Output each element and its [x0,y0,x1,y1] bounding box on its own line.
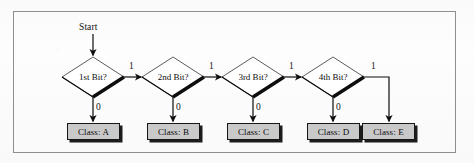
decision-label-bit2: 2nd Bit? [143,73,203,82]
outcome-box-classE: Class: E [362,123,415,140]
edge-label-bit4-yes: 1 [371,62,376,72]
edge-bit4-to-classE [364,77,389,122]
edge-label-bit3-yes: 1 [289,62,294,72]
decision-label-bit1: 1st Bit? [63,73,123,82]
edge-label-bit2-yes: 1 [209,62,214,72]
outcome-box-classC: Class: C [227,123,280,140]
figure-canvas: Start 1st Bit? 2nd Bit? 3rd Bit? 4th Bit… [0,0,474,163]
edge-label-bit4-no: 0 [336,103,341,113]
edge-label-bit2-no: 0 [176,103,181,113]
outcome-box-classB: Class: B [147,123,200,140]
edge-label-bit1-yes: 1 [129,62,134,72]
outcome-box-classA: Class: A [67,123,120,140]
start-label: Start [79,23,97,33]
edge-label-bit1-no: 0 [96,103,101,113]
outcome-box-classD: Class: D [307,123,360,140]
decision-label-bit4: 4th Bit? [303,73,363,82]
edge-label-bit3-no: 0 [256,103,261,113]
decision-label-bit3: 3rd Bit? [223,73,283,82]
